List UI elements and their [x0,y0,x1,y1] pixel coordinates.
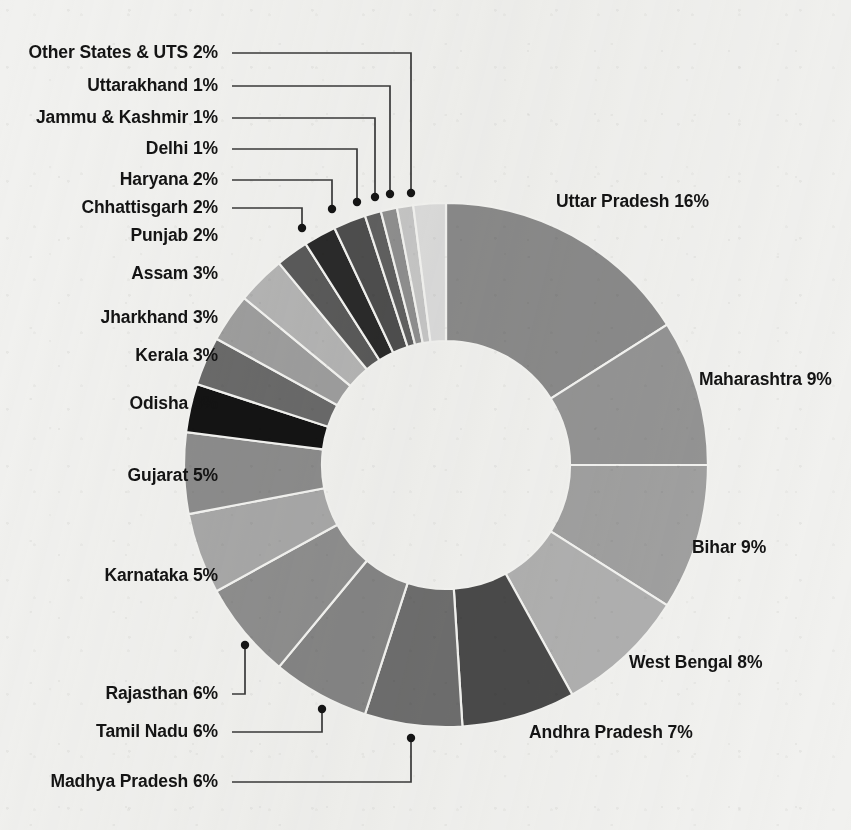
leader-dot [241,641,249,649]
slices-group: Uttar Pradesh 16%Maharashtra 9%Bihar 9%W… [184,203,708,727]
leader-line [232,738,411,782]
leader-line [232,149,357,202]
slice-label-karnataka: Karnataka 5% [104,565,218,585]
leader-line [232,208,302,228]
slice-label-punjab: Punjab 2% [130,225,218,245]
leader-line [232,180,332,209]
slice-label-other-states-uts: Other States & UTS 2% [29,42,219,62]
slice-label-haryana: Haryana 2% [120,169,219,189]
leader-dot [386,190,394,198]
leader-line [232,86,390,194]
leader-dot [298,224,306,232]
slice-label-uttarakhand: Uttarakhand 1% [87,75,218,95]
slice-label-bihar: Bihar 9% [692,537,767,557]
slice-label-tamil-nadu: Tamil Nadu 6% [96,721,218,741]
leader-line [232,645,245,694]
leader-dot [407,189,415,197]
leader-dot [371,193,379,201]
slice-label-andhra-pradesh: Andhra Pradesh 7% [529,722,693,742]
leader-line [232,709,322,732]
slice-label-assam: Assam 3% [131,263,218,283]
slice-label-kerala: Kerala 3% [135,345,218,365]
slice-label-chhattisgarh: Chhattisgarh 2% [81,197,218,217]
donut-chart: Uttar Pradesh 16%Maharashtra 9%Bihar 9%W… [0,0,851,830]
slice-label-uttar-pradesh: Uttar Pradesh 16% [556,191,709,211]
leader-line [232,118,375,197]
leader-dot [353,198,361,206]
leader-dot [407,734,415,742]
slice-label-west-bengal: West Bengal 8% [629,652,763,672]
slice-label-rajasthan: Rajasthan 6% [105,683,218,703]
slice-label-jammu-kashmir: Jammu & Kashmir 1% [36,107,219,127]
leader-dot [328,205,336,213]
slice-label-odisha: Odisha 3% [129,393,218,413]
leader-line [232,53,411,193]
slice-label-gujarat: Gujarat 5% [128,465,219,485]
donut-chart-svg: Uttar Pradesh 16%Maharashtra 9%Bihar 9%W… [0,0,851,830]
slice-label-madhya-pradesh: Madhya Pradesh 6% [50,771,218,791]
slice-label-maharashtra: Maharashtra 9% [699,369,832,389]
leader-dot [318,705,326,713]
slice-label-jharkhand: Jharkhand 3% [101,307,219,327]
slice-label-delhi: Delhi 1% [146,138,219,158]
